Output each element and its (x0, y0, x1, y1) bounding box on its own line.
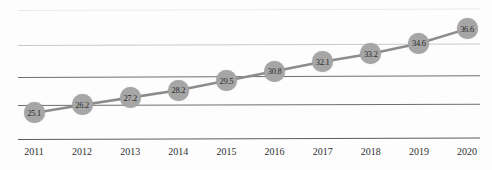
x-axis-tick-label: 2015 (216, 146, 236, 157)
data-point-marker: 27.2 (120, 87, 141, 108)
series-line (0, 0, 492, 142)
plot-area: 25.126.227.228.229.530.832.133.234.636.6 (0, 0, 492, 142)
x-axis-tick-label: 2011 (24, 146, 44, 157)
x-axis-tick-label: 2012 (72, 146, 92, 157)
x-axis-tick-labels: 2011201220132014201520162017201820192020 (0, 144, 492, 166)
data-point-marker: 28.2 (168, 80, 189, 101)
data-point-marker: 30.8 (264, 61, 285, 82)
x-axis-tick-label: 2013 (120, 146, 140, 157)
x-axis-tick-label: 2016 (265, 146, 285, 157)
data-point-marker: 36.6 (457, 18, 478, 39)
data-point-marker: 25.1 (24, 102, 45, 123)
x-axis-tick-label: 2018 (361, 146, 381, 157)
data-point-marker: 26.2 (72, 94, 93, 115)
x-axis-tick-label: 2020 (457, 146, 477, 157)
x-axis-tick-label: 2014 (168, 146, 188, 157)
x-axis-tick-label: 2019 (409, 146, 429, 157)
line-chart: 25.126.227.228.229.530.832.133.234.636.6… (0, 0, 492, 170)
x-axis-tick-label: 2017 (313, 146, 333, 157)
